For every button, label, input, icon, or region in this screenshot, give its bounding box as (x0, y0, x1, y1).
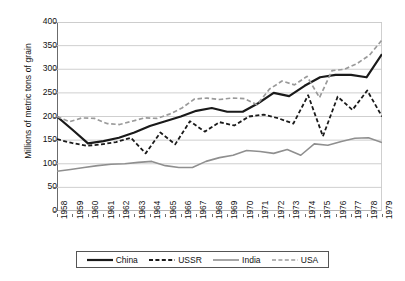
x-tick-label: 1963 (138, 201, 147, 219)
x-tick-label: 1965 (169, 201, 178, 219)
legend-swatch-china (87, 256, 113, 264)
x-tick-label: 1961 (107, 201, 116, 219)
x-tick-mark (227, 214, 228, 217)
x-tick-label: 1967 (199, 201, 208, 219)
legend-label: USSR (178, 255, 202, 265)
x-tick-mark (289, 214, 290, 217)
x-tick-mark (88, 214, 89, 217)
x-tick-mark (196, 214, 197, 217)
x-tick-mark (119, 214, 120, 217)
x-tick-mark (305, 214, 306, 217)
x-tick-label: 1972 (277, 201, 286, 219)
x-tick-mark (336, 214, 337, 217)
legend-item-ussr[interactable]: USSR (149, 255, 202, 265)
x-tick-label: 1971 (261, 201, 270, 219)
x-tick-mark (181, 214, 182, 217)
y-axis-tick-labels: 050100150200250300350400 (25, 0, 57, 211)
x-tick-label: 1970 (246, 201, 255, 219)
x-tick-mark (382, 214, 383, 217)
plot-area (57, 22, 382, 211)
x-tick-label: 1977 (354, 201, 363, 219)
x-tick-mark (103, 214, 104, 217)
x-tick-mark (165, 214, 166, 217)
x-tick-label: 1973 (292, 201, 301, 219)
x-tick-label: 1976 (339, 201, 348, 219)
x-tick-mark (134, 214, 135, 217)
series-line-usa (57, 40, 382, 125)
x-tick-mark (212, 214, 213, 217)
x-tick-label: 1964 (153, 201, 162, 219)
x-tick-label: 1979 (385, 201, 394, 219)
x-tick-label: 1975 (323, 201, 332, 219)
x-tick-mark (367, 214, 368, 217)
x-tick-mark (320, 214, 321, 217)
x-tick-label: 1962 (122, 201, 131, 219)
x-tick-label: 1969 (230, 201, 239, 219)
x-tick-label: 1958 (60, 201, 69, 219)
x-tick-mark (258, 214, 259, 217)
x-tick-label: 1960 (91, 201, 100, 219)
legend-label: India (242, 255, 260, 265)
x-tick-label: 1966 (184, 201, 193, 219)
x-tick-mark (57, 214, 58, 217)
legend-swatch-usa (272, 256, 298, 264)
x-axis-tick-labels: 1958195919601961196219631964196519661967… (57, 214, 382, 248)
x-tick-mark (351, 214, 352, 217)
x-tick-mark (150, 214, 151, 217)
x-tick-mark (72, 214, 73, 217)
x-tick-label: 1978 (370, 201, 379, 219)
x-tick-mark (243, 214, 244, 217)
legend-item-usa[interactable]: USA (272, 255, 318, 265)
y-tick-mark (53, 211, 57, 212)
series-line-india (57, 138, 382, 172)
x-tick-label: 1968 (215, 201, 224, 219)
x-tick-mark (274, 214, 275, 217)
legend-item-india[interactable]: India (213, 255, 260, 265)
legend-swatch-india (213, 256, 239, 264)
legend-item-china[interactable]: China (87, 255, 138, 265)
chart-container: Millions of metric tons of grain 0501001… (0, 0, 405, 281)
x-tick-label: 1974 (308, 201, 317, 219)
x-tick-label: 1959 (76, 201, 85, 219)
legend-label: China (116, 255, 138, 265)
legend-swatch-ussr (149, 256, 175, 264)
chart-svg (57, 22, 382, 211)
legend-label: USA (301, 255, 318, 265)
chart-legend: ChinaUSSRIndiaUSA (76, 251, 329, 268)
